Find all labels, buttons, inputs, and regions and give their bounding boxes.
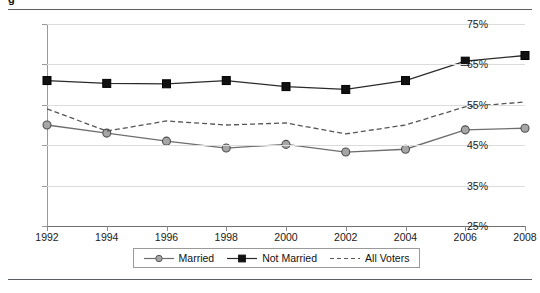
x-axis-label: 1992	[17, 231, 77, 243]
data-point-marker	[521, 52, 529, 60]
data-point-marker	[103, 79, 111, 87]
data-point-marker	[402, 77, 410, 85]
x-axis-label: 2002	[316, 231, 376, 243]
data-point-marker	[521, 124, 529, 132]
data-point-marker	[43, 77, 51, 85]
plot-area	[47, 24, 525, 226]
data-point-marker	[282, 83, 290, 91]
figure-title: g	[8, 0, 532, 7]
legend-swatch-not-married	[227, 253, 257, 264]
legend-item-all-voters[interactable]: All Voters	[330, 252, 409, 264]
x-axis-label: 1998	[196, 231, 256, 243]
y-axis-tick	[42, 105, 47, 106]
data-point-marker	[402, 145, 410, 153]
data-point-marker	[342, 85, 350, 93]
y-axis-tick	[42, 145, 47, 146]
legend-label-all-voters: All Voters	[365, 252, 409, 264]
chart-legend: Married Not Married All Voters	[133, 248, 420, 268]
y-axis-tick	[42, 24, 47, 25]
data-point-marker	[342, 148, 350, 156]
bottom-rule	[8, 279, 532, 280]
y-axis-tick	[42, 64, 47, 65]
x-axis-label: 2004	[376, 231, 436, 243]
legend-item-married[interactable]: Married	[144, 252, 215, 264]
legend-item-not-married[interactable]: Not Married	[227, 252, 317, 264]
data-point-marker	[163, 137, 171, 145]
legend-label-married: Married	[179, 252, 215, 264]
x-axis-label: 1994	[77, 231, 137, 243]
x-axis-label: 2006	[435, 231, 495, 243]
y-axis-tick	[42, 186, 47, 187]
data-point-marker	[43, 121, 51, 129]
x-axis-label: 2008	[495, 231, 540, 243]
x-axis-label: 1996	[137, 231, 197, 243]
y-axis-label: 35%	[448, 180, 488, 192]
top-rule	[8, 9, 532, 10]
y-axis-label: 75%	[448, 18, 488, 30]
series-lines	[47, 24, 525, 226]
data-point-marker	[222, 77, 230, 85]
legend-swatch-all-voters	[330, 253, 360, 264]
data-point-marker	[163, 80, 171, 88]
y-axis-label: 45%	[448, 139, 488, 151]
y-axis-label: 65%	[448, 58, 488, 70]
x-axis-label: 2000	[256, 231, 316, 243]
data-point-marker	[461, 126, 469, 134]
y-axis-label: 55%	[448, 99, 488, 111]
legend-swatch-married	[144, 253, 174, 264]
legend-label-not-married: Not Married	[262, 252, 317, 264]
figure-container: g 25%35%45%55%65%75% 1992199419961998200…	[0, 0, 540, 293]
